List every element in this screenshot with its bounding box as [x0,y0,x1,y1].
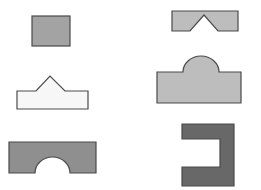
dome-block-shape [157,56,241,103]
arch-block-shape [9,142,96,173]
notched-bar-shape [172,11,238,31]
square-shape [32,16,70,46]
house-pentagon-shape [17,76,88,109]
shapes-diagram [0,0,261,190]
c-bracket-shape [182,124,234,186]
